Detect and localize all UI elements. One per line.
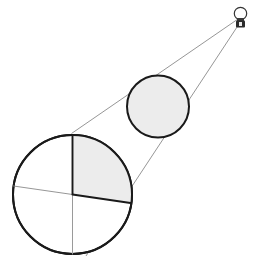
small-circle bbox=[127, 76, 189, 138]
bulb-glass-icon bbox=[234, 7, 246, 19]
bulb-socket-highlight-icon bbox=[239, 22, 242, 26]
diagram-canvas bbox=[0, 0, 262, 268]
projection-diagram-svg bbox=[0, 0, 262, 268]
light-bulb-icon bbox=[234, 7, 246, 27]
